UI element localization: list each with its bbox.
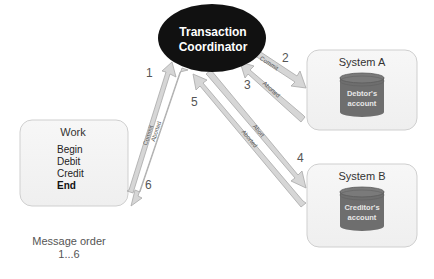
work-step-begin: Begin xyxy=(57,144,83,155)
system-b-box: System B Creditor's account xyxy=(307,164,417,247)
transaction-coordinator-node: Transaction Coordinator xyxy=(158,4,266,72)
coordinator-label-1: Transaction xyxy=(179,25,246,39)
debtor-account-label-1: Debtor's xyxy=(347,89,377,98)
creditor-account-label-1: Creditor's xyxy=(344,203,379,212)
system-b-title: System B xyxy=(338,170,385,182)
work-box: Work Begin Debit Credit End xyxy=(20,120,128,206)
step-number-2: 2 xyxy=(282,51,289,65)
debtor-account-label-2: account xyxy=(348,99,377,108)
step-number-3: 3 xyxy=(244,78,251,92)
work-title: Work xyxy=(60,126,86,138)
step-number-6: 6 xyxy=(145,178,152,192)
system-a-box: System A Debtor's account xyxy=(307,50,417,130)
creditor-account-label-2: account xyxy=(348,213,377,222)
step-number-5: 5 xyxy=(191,95,198,109)
message-order-label: Message order xyxy=(32,235,106,247)
system-a-title: System A xyxy=(339,56,386,68)
step-number-1: 1 xyxy=(146,66,153,80)
message-order-range: 1...6 xyxy=(58,248,79,260)
step-number-4: 4 xyxy=(297,151,304,165)
work-step-credit: Credit xyxy=(57,168,84,179)
diagram-canvas: System A Debtor's account System B Credi… xyxy=(0,0,434,279)
coordinator-label-2: Coordinator xyxy=(179,40,248,54)
work-step-end: End xyxy=(57,180,76,191)
arrow-6-aborted xyxy=(131,68,188,206)
arrow-3-label: Aborted xyxy=(262,80,282,99)
work-step-debit: Debit xyxy=(57,156,81,167)
